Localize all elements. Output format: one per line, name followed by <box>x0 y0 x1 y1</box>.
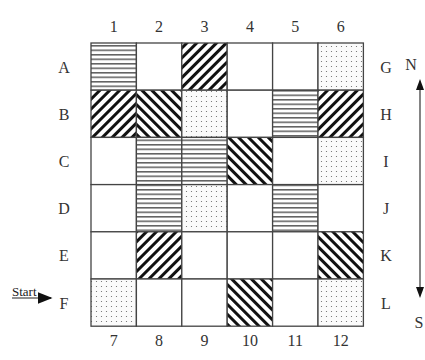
grid-cell-A4 <box>227 43 272 90</box>
row-label-left: E <box>59 247 69 264</box>
grid-cell-E6 <box>318 232 363 279</box>
row-label-right: K <box>380 247 392 264</box>
south-arrow-icon <box>416 287 424 298</box>
grid-cell-D2 <box>136 185 181 232</box>
grid-cell-A2 <box>136 43 181 90</box>
grid-cell-C3 <box>182 137 227 184</box>
grid-cell-F2 <box>136 279 181 326</box>
grid-cell-E3 <box>182 232 227 279</box>
row-label-right: I <box>383 153 388 170</box>
row-label-right: J <box>383 200 389 217</box>
grid-cell-F3 <box>182 279 227 326</box>
grid-cell-A3 <box>182 43 227 90</box>
compass: N S <box>405 56 424 331</box>
grid-cell-F6 <box>318 279 363 326</box>
grid-cell-B5 <box>273 90 318 137</box>
row-labels-right: GHIJKL <box>380 59 392 312</box>
grid-cell-E2 <box>136 232 181 279</box>
grid-cell-A1 <box>91 43 136 90</box>
grid-diagram: 123456 789101112 ABCDEF GHIJKL Start N S <box>0 0 425 360</box>
grid-cell-B2 <box>136 90 181 137</box>
grid-cell-E1 <box>91 232 136 279</box>
grid-cell-B3 <box>182 90 227 137</box>
column-label-top: 5 <box>291 18 299 35</box>
row-label-right: H <box>380 106 392 123</box>
grid-cell-D6 <box>318 185 363 232</box>
grid-cell-C1 <box>91 137 136 184</box>
grid-cell-D3 <box>182 185 227 232</box>
row-label-right: G <box>380 59 392 76</box>
compass-south-label: S <box>415 314 424 331</box>
column-labels-bottom: 789101112 <box>110 332 349 349</box>
column-label-bottom: 10 <box>242 332 258 349</box>
grid-cells <box>91 43 363 326</box>
grid-cell-A5 <box>273 43 318 90</box>
grid-cell-D4 <box>227 185 272 232</box>
grid-cell-C5 <box>273 137 318 184</box>
grid-cell-C6 <box>318 137 363 184</box>
row-label-right: L <box>381 295 391 312</box>
grid-cell-B6 <box>318 90 363 137</box>
grid-cell-F1 <box>91 279 136 326</box>
grid-cell-D1 <box>91 185 136 232</box>
column-label-top: 3 <box>201 18 209 35</box>
row-label-left: B <box>59 106 70 123</box>
grid-cell-F4 <box>227 279 272 326</box>
row-label-left: A <box>58 59 70 76</box>
grid-cell-D5 <box>273 185 318 232</box>
column-label-bottom: 8 <box>155 332 163 349</box>
start-marker: Start <box>12 284 51 299</box>
row-label-left: F <box>60 295 69 312</box>
grid-cell-B1 <box>91 90 136 137</box>
grid-cell-C4 <box>227 137 272 184</box>
grid-cell-B4 <box>227 90 272 137</box>
grid-cell-C2 <box>136 137 181 184</box>
column-label-bottom: 7 <box>110 332 118 349</box>
compass-north-label: N <box>405 56 417 73</box>
grid-cell-E4 <box>227 232 272 279</box>
start-label: Start <box>12 284 37 299</box>
grid-cell-F5 <box>273 279 318 326</box>
row-label-left: D <box>58 200 70 217</box>
column-label-bottom: 12 <box>333 332 349 349</box>
row-label-left: C <box>59 153 70 170</box>
column-label-top: 4 <box>246 18 254 35</box>
grid-cell-A6 <box>318 43 363 90</box>
column-label-top: 6 <box>337 18 345 35</box>
row-labels-left: ABCDEF <box>58 59 70 312</box>
column-label-top: 1 <box>110 18 118 35</box>
column-label-top: 2 <box>155 18 163 35</box>
north-arrow-icon <box>416 79 424 90</box>
grid-cell-E5 <box>273 232 318 279</box>
column-label-bottom: 11 <box>288 332 303 349</box>
column-label-bottom: 9 <box>201 332 209 349</box>
column-labels-top: 123456 <box>110 18 345 35</box>
